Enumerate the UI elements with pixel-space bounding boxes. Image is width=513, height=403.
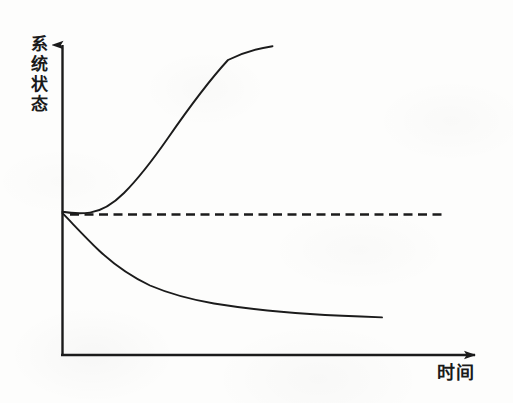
x-axis-label: 时间 [437,364,475,382]
y-axis-label: 系统状态 [22,36,56,116]
y-axis-label-char-3: 状 [22,76,56,96]
y-axis-label-char-4: 态 [22,96,56,116]
figure-canvas: 系统状态 时间 [0,0,513,403]
y-axis-label-char-1: 系 [22,36,56,56]
divergent-growth-curve [63,46,273,213]
decaying-decline-curve [63,213,383,317]
diagram-plot [0,0,513,403]
y-axis-label-char-2: 统 [22,56,56,76]
